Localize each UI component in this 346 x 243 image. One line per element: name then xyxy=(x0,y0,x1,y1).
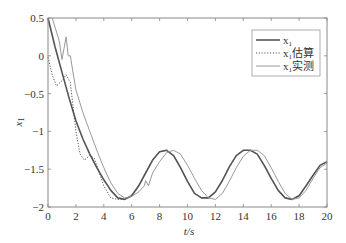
y-tick-label: −1.5 xyxy=(24,163,44,175)
x-tick-label: 6 xyxy=(129,210,135,222)
y-tick-label: 0 xyxy=(39,50,45,62)
x-tick-label: 10 xyxy=(182,210,194,222)
y-tick-label: −2 xyxy=(32,201,44,213)
x-tick-label: 4 xyxy=(101,210,107,222)
y-tick-label: −0.5 xyxy=(24,88,44,100)
x-axis-label: t/s xyxy=(184,225,194,237)
y-tick-label: 0.5 xyxy=(30,12,44,24)
series-line-1 xyxy=(48,57,327,199)
line-chart: 02468101214161820 0.50−0.5−1−1.5−2 t/s x… xyxy=(0,0,346,243)
x-tick-label: 12 xyxy=(210,210,221,222)
legend: x₁x₁估算x₁实测 xyxy=(252,30,320,76)
x-tick-label: 16 xyxy=(266,210,278,222)
y-tick-label: −1 xyxy=(32,125,44,137)
svg-text:x1: x1 xyxy=(12,118,26,128)
legend-label-0: x₁ xyxy=(283,34,293,46)
x-tick-label: 0 xyxy=(45,210,51,222)
x-tick-label: 18 xyxy=(294,210,306,222)
x-tick-label: 2 xyxy=(73,210,79,222)
x-tick-label: 14 xyxy=(238,210,250,222)
legend-label-1: x₁估算 xyxy=(283,46,314,59)
x-tick-label: 20 xyxy=(322,210,334,222)
legend-label-2: x₁实测 xyxy=(283,59,314,72)
x-tick-label: 8 xyxy=(157,210,163,222)
y-axis-label: x1 xyxy=(12,118,26,128)
